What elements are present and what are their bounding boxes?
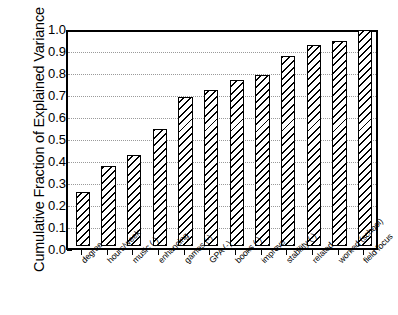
y-tick-label: 0.0 — [32, 242, 66, 257]
y-tick-label: 0.9 — [32, 44, 66, 59]
chart-figure: Cumulative Fraction of Explained Varianc… — [0, 0, 398, 315]
bar — [358, 30, 372, 246]
bar — [307, 45, 321, 246]
y-tick-label: 0.4 — [32, 154, 66, 169]
y-axis-ticks: 0.00.10.20.30.40.50.60.70.80.91.0 — [26, 30, 66, 250]
bar — [204, 90, 218, 246]
bar-series — [70, 34, 374, 246]
bar — [153, 129, 167, 246]
y-tick-label: 1.0 — [32, 22, 66, 37]
bar — [255, 75, 269, 246]
bar — [332, 41, 346, 246]
plot-area — [66, 30, 378, 250]
y-tick-label: 0.6 — [32, 110, 66, 125]
y-tick-label: 0.1 — [32, 220, 66, 235]
y-tick-label: 0.2 — [32, 198, 66, 213]
y-tick-label: 0.3 — [32, 176, 66, 191]
bar — [76, 192, 90, 246]
bar — [178, 97, 192, 246]
y-tick-label: 0.7 — [32, 88, 66, 103]
bar — [230, 80, 244, 246]
y-tick-label: 0.5 — [32, 132, 66, 147]
bar — [281, 56, 295, 246]
y-tick-label: 0.8 — [32, 66, 66, 81]
bar — [101, 166, 115, 246]
x-axis-tick-labels: degreehours/weekmusic (-)enhancinggames … — [66, 250, 378, 315]
